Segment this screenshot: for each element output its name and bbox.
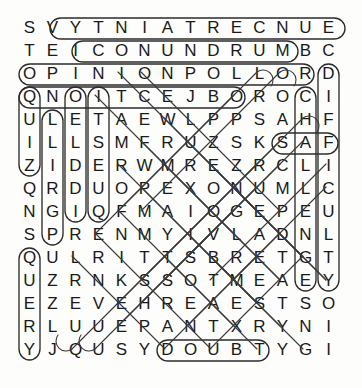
grid-cell[interactable]: Z bbox=[41, 292, 64, 315]
grid-cell[interactable]: D bbox=[271, 223, 294, 246]
grid-cell[interactable]: T bbox=[248, 338, 271, 361]
grid-cell[interactable]: S bbox=[18, 16, 41, 39]
grid-cell[interactable]: L bbox=[179, 108, 202, 131]
grid-cell[interactable]: Q bbox=[18, 85, 41, 108]
grid-cell[interactable]: T bbox=[202, 269, 225, 292]
grid-cell[interactable]: I bbox=[41, 154, 64, 177]
grid-cell[interactable]: O bbox=[110, 177, 133, 200]
grid-cell[interactable]: A bbox=[156, 315, 179, 338]
grid-cell[interactable]: I bbox=[179, 223, 202, 246]
grid-cell[interactable]: D bbox=[64, 154, 87, 177]
grid-cell[interactable]: E bbox=[110, 315, 133, 338]
grid-cell[interactable]: D bbox=[156, 338, 179, 361]
grid-cell[interactable]: O bbox=[18, 62, 41, 85]
grid-cell[interactable]: E bbox=[294, 200, 317, 223]
grid-cell[interactable]: P bbox=[41, 223, 64, 246]
grid-cell[interactable]: R bbox=[64, 269, 87, 292]
grid-cell[interactable]: E bbox=[18, 292, 41, 315]
grid-cell[interactable]: W bbox=[133, 154, 156, 177]
grid-cell[interactable]: T bbox=[18, 39, 41, 62]
grid-cell[interactable]: K bbox=[110, 269, 133, 292]
grid-cell[interactable]: G bbox=[294, 338, 317, 361]
grid-cell[interactable]: N bbox=[294, 223, 317, 246]
grid-cell[interactable]: T bbox=[271, 246, 294, 269]
grid-cell[interactable]: O bbox=[179, 269, 202, 292]
grid-cell[interactable]: E bbox=[156, 177, 179, 200]
grid-cell[interactable]: F bbox=[317, 131, 340, 154]
grid-cell[interactable]: S bbox=[110, 338, 133, 361]
grid-cell[interactable]: S bbox=[225, 131, 248, 154]
grid-cell[interactable]: R bbox=[248, 154, 271, 177]
grid-cell[interactable]: S bbox=[294, 292, 317, 315]
grid-cell[interactable]: S bbox=[18, 223, 41, 246]
grid-cell[interactable]: T bbox=[87, 16, 110, 39]
grid-cell[interactable]: L bbox=[225, 62, 248, 85]
grid-cell[interactable]: S bbox=[156, 269, 179, 292]
grid-cell[interactable]: Y bbox=[271, 338, 294, 361]
grid-cell[interactable]: O bbox=[271, 62, 294, 85]
grid-cell[interactable]: E bbox=[133, 108, 156, 131]
grid-cell[interactable]: R bbox=[248, 85, 271, 108]
grid-cell[interactable]: B bbox=[202, 246, 225, 269]
grid-cell[interactable]: R bbox=[110, 154, 133, 177]
grid-cell[interactable]: D bbox=[317, 62, 340, 85]
grid-cell[interactable]: F bbox=[110, 200, 133, 223]
grid-cell[interactable]: N bbox=[110, 223, 133, 246]
grid-cell[interactable]: D bbox=[64, 177, 87, 200]
grid-cell[interactable]: U bbox=[41, 246, 64, 269]
grid-cell[interactable]: T bbox=[179, 16, 202, 39]
grid-cell[interactable]: A bbox=[271, 108, 294, 131]
grid-cell[interactable]: K bbox=[248, 131, 271, 154]
grid-cell[interactable]: S bbox=[87, 131, 110, 154]
grid-cell[interactable]: M bbox=[156, 154, 179, 177]
grid-cell[interactable]: U bbox=[202, 338, 225, 361]
grid-cell[interactable]: N bbox=[41, 85, 64, 108]
grid-cell[interactable]: R bbox=[64, 223, 87, 246]
grid-cell[interactable]: N bbox=[225, 177, 248, 200]
grid-cell[interactable]: Y bbox=[64, 16, 87, 39]
grid-cell[interactable]: C bbox=[133, 85, 156, 108]
grid-cell[interactable]: E bbox=[294, 269, 317, 292]
grid-cell[interactable]: C bbox=[248, 16, 271, 39]
grid-cell[interactable]: E bbox=[110, 292, 133, 315]
grid-cell[interactable]: G bbox=[225, 200, 248, 223]
grid-cell[interactable]: E bbox=[225, 292, 248, 315]
grid-cell[interactable]: N bbox=[294, 315, 317, 338]
grid-cell[interactable]: I bbox=[317, 315, 340, 338]
grid-cell[interactable]: O bbox=[317, 292, 340, 315]
grid-cell[interactable]: O bbox=[110, 39, 133, 62]
grid-cell[interactable]: U bbox=[294, 16, 317, 39]
grid-cell[interactable]: O bbox=[271, 85, 294, 108]
grid-cell[interactable]: M bbox=[271, 177, 294, 200]
grid-cell[interactable]: I bbox=[110, 246, 133, 269]
grid-cell[interactable]: Q bbox=[87, 200, 110, 223]
grid-cell[interactable]: C bbox=[317, 177, 340, 200]
grid-cell[interactable]: E bbox=[87, 154, 110, 177]
grid-cell[interactable]: R bbox=[156, 131, 179, 154]
grid-cell[interactable]: N bbox=[87, 62, 110, 85]
grid-cell[interactable]: L bbox=[294, 154, 317, 177]
grid-cell[interactable]: O bbox=[202, 62, 225, 85]
grid-cell[interactable]: I bbox=[64, 200, 87, 223]
grid-cell[interactable]: I bbox=[110, 62, 133, 85]
grid-cell[interactable]: U bbox=[18, 108, 41, 131]
grid-cell[interactable]: L bbox=[64, 246, 87, 269]
grid-cell[interactable]: R bbox=[87, 246, 110, 269]
grid-cell[interactable]: R bbox=[225, 39, 248, 62]
grid-cell[interactable]: V bbox=[41, 16, 64, 39]
grid-cell[interactable]: T bbox=[87, 108, 110, 131]
grid-cell[interactable]: E bbox=[64, 108, 87, 131]
grid-cell[interactable]: P bbox=[202, 108, 225, 131]
grid-cell[interactable]: E bbox=[225, 16, 248, 39]
grid-cell[interactable]: I bbox=[64, 62, 87, 85]
grid-cell[interactable]: X bbox=[179, 177, 202, 200]
grid-cell[interactable]: C bbox=[87, 39, 110, 62]
grid-cell[interactable]: S bbox=[271, 131, 294, 154]
grid-cell[interactable]: I bbox=[317, 154, 340, 177]
grid-cell[interactable]: A bbox=[248, 223, 271, 246]
grid-cell[interactable]: N bbox=[271, 16, 294, 39]
grid-cell[interactable]: R bbox=[202, 16, 225, 39]
grid-cell[interactable]: E bbox=[87, 223, 110, 246]
grid-cell[interactable]: D bbox=[202, 39, 225, 62]
grid-cell[interactable]: Q bbox=[18, 177, 41, 200]
